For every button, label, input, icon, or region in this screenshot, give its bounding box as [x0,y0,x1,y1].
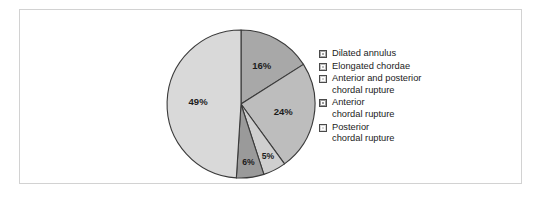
legend-item-label: Posteriorchordal rupture [332,122,395,145]
pie-chart-svg: 16%24%5%6%49% [165,28,317,180]
legend-item[interactable]: Anterior and posteriorchordal rupture [319,73,469,96]
legend-item[interactable]: Anteriorchordal rupture [319,97,469,120]
chart-frame: 16%24%5%6%49% Dilated annulusElongated c… [19,9,522,184]
pie-label-anterior-and-posterior: 5% [262,151,275,161]
pie-chart: 16%24%5%6%49% [165,28,317,180]
legend-item-label-line2: chordal rupture [332,109,395,121]
legend-swatch-icon [319,99,327,107]
legend-item-label: Anteriorchordal rupture [332,97,395,120]
legend: Dilated annulusElongated chordaeAnterior… [319,48,469,146]
legend-item[interactable]: Elongated chordae [319,61,469,73]
legend-swatch-icon [319,50,327,58]
pie-label-posterior: 49% [189,96,209,107]
legend-swatch-icon [319,124,327,132]
pie-label-dilated-annulus: 16% [252,60,272,71]
figure-root: 16%24%5%6%49% Dilated annulusElongated c… [0,0,542,202]
legend-item-label: Elongated chordae [332,61,410,73]
pie-label-anterior: 6% [242,157,255,167]
legend-item-label: Anterior and posteriorchordal rupture [332,73,421,96]
legend-item[interactable]: Posteriorchordal rupture [319,122,469,145]
legend-item-label-line2: chordal rupture [332,133,395,145]
legend-item-label-line2: chordal rupture [332,85,421,97]
legend-swatch-icon [319,63,327,71]
legend-item-label: Dilated annulus [332,48,396,60]
legend-item[interactable]: Dilated annulus [319,48,469,60]
pie-label-elongated-chordae: 24% [274,106,294,117]
legend-swatch-icon [319,75,327,83]
